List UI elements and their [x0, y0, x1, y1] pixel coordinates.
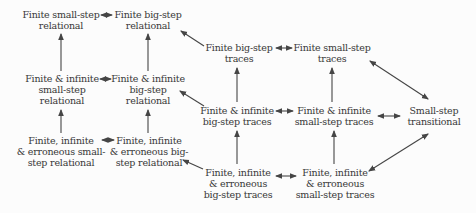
node-label-line: Finite, infinite	[110, 135, 189, 146]
edge-finite-big-step-traces--finite-big-step-relational	[181, 31, 204, 46]
node-label-line: Finite, infinite	[204, 167, 273, 178]
node-label-line: Finite small-step	[293, 42, 370, 53]
node-small-step-transitional: Small-step transitional	[407, 105, 460, 127]
node-label-line: big-step	[111, 84, 185, 95]
node-finite-infinite-erroneous-big-step-traces: Finite, infinite & erroneous big-step tr…	[204, 167, 273, 200]
node-label-line: & erroneous big-	[110, 146, 189, 157]
node-label-line: & erroneous	[204, 178, 273, 189]
node-label-line: relational	[111, 95, 185, 106]
node-finite-small-step-traces: Finite small-step traces	[293, 42, 370, 64]
node-finite-infinite-erroneous-small-step-traces: Finite, infinite & erroneous small-step …	[296, 167, 375, 200]
node-label-line: big-step traces	[204, 189, 273, 200]
node-label-line: Finite small-step	[22, 9, 99, 20]
node-finite-infinite-big-step-traces: Finite & infinite big-step traces	[200, 105, 274, 127]
node-finite-infinite-small-step-traces: Finite & infinite small-step traces	[295, 105, 374, 127]
semantics-styles-diagram: Finite small-step relational Finite big-…	[0, 0, 476, 213]
node-label-line: small-step traces	[295, 116, 374, 127]
node-label-line: small-step traces	[296, 189, 375, 200]
node-label-line: relational	[25, 95, 99, 106]
node-label-line: & erroneous small-	[17, 146, 106, 157]
node-label-line: Finite & infinite	[25, 73, 99, 84]
node-finite-infinite-big-step-relational: Finite & infinite big-step relational	[111, 73, 185, 106]
node-label-line: Finite & infinite	[200, 105, 274, 116]
node-label-line: traces	[293, 53, 370, 64]
node-label-line: Finite, infinite	[17, 135, 106, 146]
node-label-line: step relational	[110, 157, 189, 168]
node-finite-big-step-relational: Finite big-step relational	[114, 9, 181, 31]
edge-finite-small-step-traces--small-step-transitional	[370, 61, 428, 99]
node-label-line: Finite, infinite	[296, 167, 375, 178]
node-label-line: Finite big-step	[205, 42, 272, 53]
node-label-line: traces	[205, 53, 272, 64]
node-label-line: Small-step	[407, 105, 460, 116]
edge-finite-infinite-erroneous-small-step-traces--small-step-transitional	[369, 134, 428, 171]
node-finite-infinite-erroneous-small-step-relational: Finite, infinite & erroneous small- step…	[17, 135, 106, 168]
node-label-line: transitional	[407, 116, 460, 127]
node-finite-infinite-small-step-relational: Finite & infinite small-step relational	[25, 73, 99, 106]
node-label-line: Finite & infinite	[111, 73, 185, 84]
node-label-line: small-step	[25, 84, 99, 95]
node-label-line: Finite big-step	[114, 9, 181, 20]
node-finite-small-step-relational: Finite small-step relational	[22, 9, 99, 31]
node-label-line: relational	[114, 20, 181, 31]
node-finite-big-step-traces: Finite big-step traces	[205, 42, 272, 64]
node-label-line: step relational	[17, 157, 106, 168]
node-label-line: big-step traces	[200, 116, 274, 127]
node-finite-infinite-erroneous-big-step-relational: Finite, infinite & erroneous big- step r…	[110, 135, 189, 168]
node-label-line: Finite & infinite	[295, 105, 374, 116]
node-label-line: & erroneous	[296, 178, 375, 189]
node-label-line: relational	[22, 20, 99, 31]
